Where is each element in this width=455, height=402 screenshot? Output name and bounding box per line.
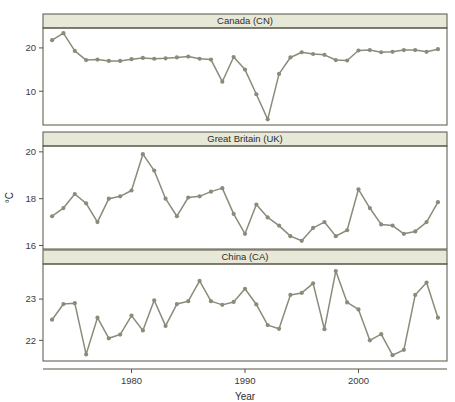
data-point — [368, 338, 372, 342]
data-point — [300, 50, 304, 54]
y-tick-label-3-0: 22 — [25, 335, 36, 346]
data-point — [379, 50, 383, 54]
data-point — [84, 201, 88, 205]
data-point — [198, 279, 202, 283]
data-point — [334, 234, 338, 238]
data-point — [118, 59, 122, 63]
x-tick-label-2: 2000 — [348, 375, 369, 386]
data-point — [61, 302, 65, 306]
data-point — [311, 226, 315, 230]
data-point — [436, 47, 440, 51]
data-point — [345, 300, 349, 304]
data-point — [254, 302, 258, 306]
data-point — [266, 323, 270, 327]
data-point — [300, 291, 304, 295]
data-point — [95, 316, 99, 320]
data-point — [368, 206, 372, 210]
y-tick-label-1-1: 20 — [25, 42, 36, 53]
data-point — [209, 58, 213, 62]
data-point — [141, 56, 145, 60]
panel-3: China (CA)2223 — [25, 250, 447, 361]
panel-title-1: Canada (CN) — [217, 15, 273, 26]
data-point — [152, 168, 156, 172]
data-point — [424, 280, 428, 284]
data-point — [107, 336, 111, 340]
data-point — [198, 194, 202, 198]
data-point — [436, 200, 440, 204]
data-point — [356, 307, 360, 311]
data-point — [243, 67, 247, 71]
data-point — [356, 48, 360, 52]
data-point — [152, 57, 156, 61]
x-tick-label-1: 1990 — [234, 375, 255, 386]
data-point — [163, 324, 167, 328]
data-point — [129, 314, 133, 318]
data-point — [254, 202, 258, 206]
data-point — [175, 55, 179, 59]
data-point — [84, 58, 88, 62]
data-point — [220, 303, 224, 307]
data-point — [288, 293, 292, 297]
data-point — [232, 55, 236, 59]
data-point — [266, 117, 270, 121]
data-point — [311, 52, 315, 56]
data-point — [288, 55, 292, 59]
x-axis: 198019902000Year — [43, 369, 447, 402]
data-line-3 — [52, 271, 438, 355]
chart-figure: Canada (CN)1020Great Britain (UK)161820C… — [0, 0, 455, 402]
data-point — [243, 287, 247, 291]
data-point — [232, 300, 236, 304]
data-point — [163, 56, 167, 60]
data-point — [311, 281, 315, 285]
data-point — [345, 58, 349, 62]
data-point — [175, 214, 179, 218]
data-point — [50, 214, 54, 218]
data-point — [277, 327, 281, 331]
temperature-panels-svg: Canada (CN)1020Great Britain (UK)161820C… — [0, 0, 455, 402]
data-point — [198, 57, 202, 61]
data-point — [220, 186, 224, 190]
data-point — [232, 212, 236, 216]
data-point — [413, 229, 417, 233]
data-point — [220, 80, 224, 84]
data-point — [413, 48, 417, 52]
data-point — [186, 54, 190, 58]
data-point — [73, 301, 77, 305]
data-point — [379, 332, 383, 336]
data-point — [61, 31, 65, 35]
data-point — [141, 152, 145, 156]
data-point — [390, 353, 394, 357]
data-point — [129, 188, 133, 192]
panel-title-2: Great Britain (UK) — [207, 133, 283, 144]
x-tick-label-0: 1980 — [121, 375, 142, 386]
data-point — [61, 206, 65, 210]
data-point — [84, 352, 88, 356]
panel-frame-3 — [43, 264, 447, 361]
data-point — [266, 215, 270, 219]
data-point — [50, 38, 54, 42]
data-point — [95, 220, 99, 224]
data-point — [107, 59, 111, 63]
data-point — [50, 318, 54, 322]
y-tick-label-1-0: 10 — [25, 86, 36, 97]
data-point — [402, 232, 406, 236]
data-point — [322, 53, 326, 57]
data-point — [334, 269, 338, 273]
data-point — [345, 228, 349, 232]
data-point — [95, 58, 99, 62]
data-point — [209, 299, 213, 303]
data-point — [175, 302, 179, 306]
data-point — [73, 192, 77, 196]
data-point — [322, 220, 326, 224]
data-point — [118, 332, 122, 336]
data-point — [436, 316, 440, 320]
panel-title-3: China (CA) — [222, 251, 269, 262]
y-axis-title: °C — [4, 192, 15, 203]
data-point — [209, 190, 213, 194]
data-point — [152, 298, 156, 302]
data-point — [186, 195, 190, 199]
data-point — [334, 58, 338, 62]
data-point — [73, 49, 77, 53]
y-tick-label-2-0: 16 — [25, 240, 36, 251]
x-axis-title: Year — [235, 391, 256, 402]
